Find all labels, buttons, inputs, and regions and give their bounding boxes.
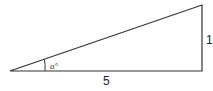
base-label: 5 (103, 75, 110, 87)
angle-arc (44, 60, 45, 71)
angle-label: a° (50, 62, 58, 71)
height-label: 1 (206, 34, 213, 46)
triangle (10, 5, 202, 71)
